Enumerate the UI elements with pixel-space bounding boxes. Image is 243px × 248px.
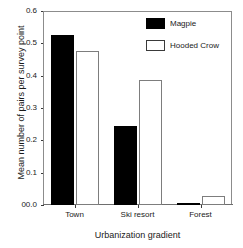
- y-tick-label: 0.6: [13, 7, 37, 15]
- y-tick-label: 0.1: [13, 169, 37, 177]
- legend-item-hooded-crow: Hooded Crow: [146, 36, 230, 54]
- bar-magpie-town: [51, 35, 74, 205]
- x-tick-label: Town: [65, 210, 84, 219]
- x-tick-mark: [201, 205, 202, 208]
- legend-swatch-icon: [146, 18, 165, 29]
- bar-chart: Mean number of pairs per survey point 00…: [0, 0, 243, 248]
- bar-hooded-crow-forest: [202, 196, 225, 205]
- chart-legend: MagpieHooded Crow: [146, 14, 230, 58]
- y-tick-label: 0.5: [13, 39, 37, 47]
- x-tick-label: Forest: [189, 210, 212, 219]
- y-tick-label: 0.3: [13, 104, 37, 112]
- bar-hooded-crow-ski-resort: [139, 80, 162, 205]
- x-axis-title: Urbanization gradient: [43, 230, 232, 240]
- legend-item-magpie: Magpie: [146, 14, 230, 32]
- y-tick-label: 0.2: [13, 136, 37, 144]
- bar-magpie-ski-resort: [114, 126, 137, 205]
- y-tick-label: 00.0: [13, 201, 37, 209]
- x-tick-mark: [138, 205, 139, 208]
- x-tick-mark: [75, 205, 76, 208]
- legend-swatch-icon: [146, 40, 165, 51]
- x-tick-label: Ski resort: [121, 210, 155, 219]
- bar-hooded-crow-town: [76, 51, 99, 205]
- legend-label: Magpie: [170, 19, 196, 28]
- bar-magpie-forest: [177, 203, 200, 205]
- y-axis-tick-labels: 00.00.10.20.30.40.50.6: [13, 0, 37, 248]
- y-tick-label: 0.4: [13, 72, 37, 80]
- bar-group: [51, 11, 99, 205]
- y-tick-mark: [41, 205, 44, 206]
- legend-label: Hooded Crow: [170, 41, 219, 50]
